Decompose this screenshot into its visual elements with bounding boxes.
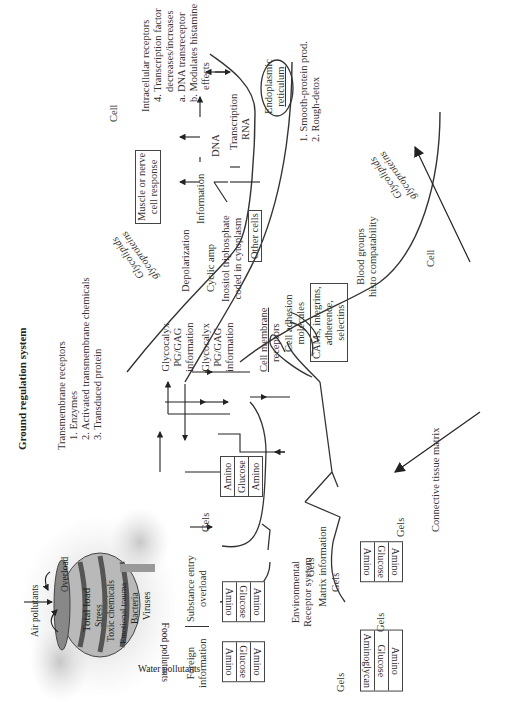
depolarization-label: Depolarization bbox=[180, 230, 192, 292]
intracellular-line: effects bbox=[200, 62, 212, 90]
air-pollutants-label: Air pollutants bbox=[30, 584, 40, 637]
information-label: Information bbox=[195, 174, 207, 224]
cams-box: CAMs, integrins, adherence, selectins bbox=[310, 283, 348, 362]
molecule-stack: Amino Glucose Amino bbox=[222, 641, 265, 682]
transmembrane-item: 2. Activated transmembrane chemicals bbox=[80, 277, 92, 440]
overload-label: Overload bbox=[60, 557, 70, 592]
dna-label: DNA bbox=[210, 134, 222, 157]
intracellular-heading: Intracellular receptors bbox=[140, 20, 152, 112]
gels-label: Gels bbox=[200, 513, 212, 532]
er-label: Endoplasmic reticulum bbox=[263, 59, 287, 114]
diagram-title: Ground regulation system bbox=[16, 328, 28, 450]
gels-label: Gels bbox=[375, 613, 387, 632]
rna-label: RNA bbox=[240, 118, 252, 140]
diagram-canvas: Ground regulation system Transmembrane r… bbox=[0, 0, 508, 702]
connective-tissue-label: Connective tissue matrix bbox=[430, 428, 442, 532]
barrel-band: Stress bbox=[94, 604, 104, 627]
intracellular-line: a. DNA transreceptor bbox=[176, 12, 188, 102]
matrix-information-label: Matrix information bbox=[317, 526, 329, 607]
muscle-response-box: Muscle or nerve cell response bbox=[135, 150, 161, 224]
molecule-stack: Amino Glucose Amino bbox=[222, 581, 265, 622]
environmental-receptor-label: Environmental Receptor system bbox=[290, 557, 314, 627]
receptors-label: receptors bbox=[270, 324, 282, 362]
transmembrane-item: 1. Enzymes bbox=[68, 391, 80, 440]
cell-label-top: Cell bbox=[108, 105, 120, 123]
er-note: 2. Rough-detox bbox=[310, 77, 322, 142]
barrel-band: Toxic chemicals bbox=[106, 580, 116, 642]
barrel-band: Total load bbox=[80, 588, 92, 632]
gels-label: Gels bbox=[330, 573, 342, 592]
barrel-band: Bacteria bbox=[130, 592, 140, 624]
food-pollutants-label: Food pollutants bbox=[160, 623, 170, 682]
intracellular-line: decreases/increases bbox=[164, 10, 176, 92]
cell-label-right: Cell bbox=[425, 250, 437, 268]
other-cells-box: Other cells bbox=[248, 210, 262, 262]
intracellular-line: b. Modulates histamine bbox=[188, 4, 200, 102]
glycocalyx-info-1: Glycocalyx PG/GAG information bbox=[160, 322, 196, 372]
glycocalyx-info-2: Glycocalyx PG/GAG information bbox=[200, 322, 236, 372]
molecule-stack: Amino Glucose Amino bbox=[220, 456, 263, 497]
transcription-label: Transcription bbox=[228, 94, 240, 150]
transmembrane-item: 3. Transduced protein bbox=[92, 349, 104, 440]
gels-label: Gels bbox=[395, 518, 407, 537]
foreign-information-label: Foreign information bbox=[185, 638, 209, 688]
intracellular-line: 4. Transcription factor bbox=[152, 8, 164, 102]
cell-membrane-label: Cell membrane bbox=[258, 308, 270, 372]
molecule-stack-aminoglycan: Amino Glucose Aminoglycan bbox=[360, 630, 403, 692]
barrel-band: Viruses bbox=[142, 592, 152, 620]
blood-groups-label: Blood groups histo compatability bbox=[355, 216, 379, 297]
er-note: 1. Smooth-protein prod. bbox=[298, 41, 310, 142]
molecule-stack: Amino Glucose Amino bbox=[360, 541, 403, 582]
cyclic-amp-label: Cyclic amp bbox=[205, 244, 217, 292]
cell-adhesion-label: Cell adhesion molecules bbox=[283, 295, 307, 352]
barrel-band: Emotional trauma bbox=[118, 583, 128, 644]
substance-entry-label: Substance entry overload bbox=[185, 555, 209, 627]
inositol-label: Inositol triphosphate coded in cytoplasm bbox=[220, 215, 244, 302]
transmembrane-heading: Transmembrane receptors bbox=[56, 341, 68, 450]
gels-label: Gels bbox=[335, 673, 347, 692]
